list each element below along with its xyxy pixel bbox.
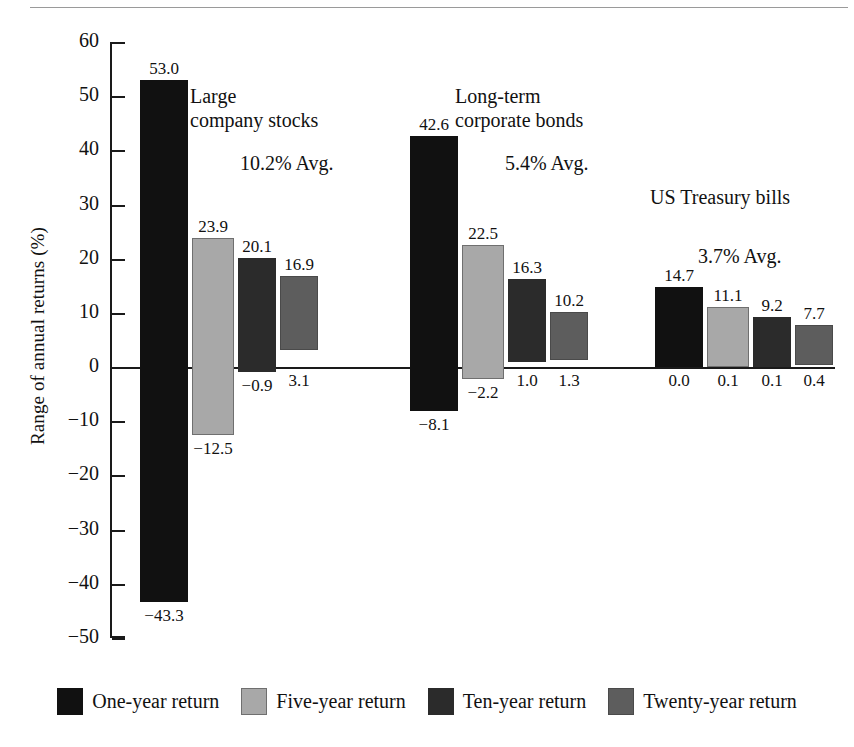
bar-min-label: 0.4	[789, 371, 839, 391]
chart-legend: One-year returnFive-year returnTen-year …	[0, 688, 854, 715]
y-tick-label: −30	[68, 517, 99, 540]
y-tick-label: −20	[68, 462, 99, 485]
bar-max-label: 10.2	[544, 291, 594, 311]
group-average-label: 5.4% Avg.	[505, 152, 589, 175]
y-axis-spine	[110, 42, 112, 638]
bar	[508, 279, 546, 362]
bar	[238, 258, 276, 372]
group-label: Long-term corporate bonds	[455, 84, 583, 133]
y-axis-title: Range of annual returns (%)	[27, 186, 49, 486]
y-tick-label: 10	[79, 300, 99, 323]
bar-max-label: 14.7	[649, 266, 709, 286]
y-tick-mark	[112, 530, 125, 532]
legend-swatch-icon	[241, 688, 267, 715]
bar-min-label: 1.3	[544, 371, 594, 391]
y-tick-label: 0	[89, 354, 99, 377]
legend-swatch-icon	[428, 688, 454, 715]
y-tick-label: 30	[79, 192, 99, 215]
bar-max-label: 22.5	[456, 224, 510, 244]
y-tick-mark	[112, 205, 125, 207]
legend-item[interactable]: One-year return	[57, 688, 219, 715]
y-tick-label: 20	[79, 246, 99, 269]
legend-item[interactable]: Ten-year return	[428, 688, 587, 715]
bar-min-label: −8.1	[404, 415, 464, 435]
bar	[707, 307, 749, 367]
y-tick-label: 60	[79, 29, 99, 52]
bar-max-label: 16.9	[274, 255, 324, 275]
bar-max-label: 7.7	[789, 304, 839, 324]
y-tick-mark	[112, 96, 125, 98]
y-tick-label: 40	[79, 137, 99, 160]
legend-swatch-icon	[608, 688, 634, 715]
group-average-label: 3.7% Avg.	[698, 245, 782, 268]
chart-figure: Range of annual returns (%) 605040302010…	[0, 0, 854, 747]
legend-item[interactable]: Twenty-year return	[608, 688, 797, 715]
group-label: US Treasury bills	[650, 185, 790, 209]
bar	[140, 80, 188, 602]
bar-max-label: 16.3	[502, 258, 552, 278]
legend-label: Ten-year return	[463, 690, 587, 713]
legend-label: Twenty-year return	[643, 690, 797, 713]
plot-area: 6050403020100−10−20−30−40−50 53.0−43.323…	[110, 42, 835, 638]
bar	[462, 245, 504, 379]
y-tick-mark	[112, 584, 125, 586]
group-label: Large company stocks	[190, 84, 318, 133]
bar	[753, 317, 791, 366]
y-tick-mark	[112, 150, 125, 152]
bar-min-label: 0.0	[649, 371, 709, 391]
bar-max-label: 23.9	[186, 217, 240, 237]
bar	[655, 287, 703, 367]
y-tick-label: 50	[79, 83, 99, 106]
legend-label: One-year return	[92, 690, 219, 713]
y-tick-label: −10	[68, 408, 99, 431]
y-tick-mark	[112, 421, 125, 423]
bar	[280, 276, 318, 351]
bar	[410, 136, 458, 411]
legend-label: Five-year return	[276, 690, 405, 713]
y-tick-mark	[112, 638, 125, 640]
bar-min-label: 3.1	[274, 371, 324, 391]
y-tick-mark	[112, 259, 125, 261]
bar	[192, 238, 234, 435]
bar-min-label: −43.3	[134, 606, 194, 626]
y-tick-mark	[112, 313, 125, 315]
y-tick-label: −40	[68, 571, 99, 594]
bar	[550, 312, 588, 360]
bar-min-label: −12.5	[186, 439, 240, 459]
y-tick-mark	[112, 42, 125, 44]
y-tick-label: −50	[68, 625, 99, 648]
legend-swatch-icon	[57, 688, 83, 715]
legend-item[interactable]: Five-year return	[241, 688, 405, 715]
group-average-label: 10.2% Avg.	[240, 152, 334, 175]
y-tick-mark	[112, 475, 125, 477]
bar	[795, 325, 833, 365]
header-rule	[30, 7, 848, 8]
bar-max-label: 53.0	[134, 59, 194, 79]
